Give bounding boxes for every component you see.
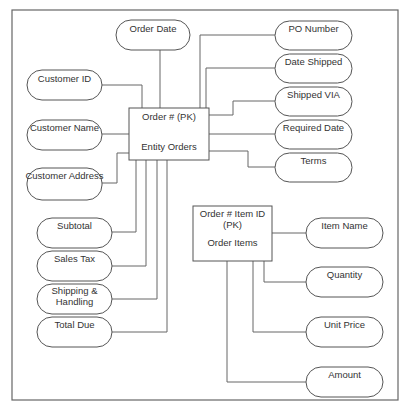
attribute-required-date[interactable]: Required Date bbox=[275, 120, 352, 149]
er-diagram: Order # (PK) Entity Orders Order # Item … bbox=[0, 0, 410, 416]
order-items-name-label: Order Items bbox=[207, 237, 257, 248]
order-items-key-label-line2: (PK) bbox=[223, 219, 242, 230]
attribute-label-line2: Handling bbox=[56, 296, 94, 307]
attribute-unit-price[interactable]: Unit Price bbox=[306, 317, 383, 347]
orders-name-label: Entity Orders bbox=[141, 141, 197, 152]
attribute-label: Amount bbox=[328, 369, 361, 380]
attribute-quantity[interactable]: Quantity bbox=[306, 267, 383, 297]
entity-orders[interactable]: Order # (PK) Entity Orders bbox=[129, 108, 209, 160]
attribute-item-name[interactable]: Item Name bbox=[306, 218, 383, 248]
attribute-label: Unit Price bbox=[324, 319, 365, 330]
attribute-label-line1: Shipping & bbox=[52, 285, 99, 296]
attribute-po-number[interactable]: PO Number bbox=[275, 21, 352, 50]
attribute-label: Customer Name bbox=[30, 122, 99, 133]
attribute-label: Customer Address bbox=[25, 170, 103, 181]
attribute-label: Required Date bbox=[283, 122, 344, 133]
entity-order-items[interactable]: Order # Item ID (PK) Order Items bbox=[193, 206, 272, 261]
attribute-label: Total Due bbox=[54, 319, 94, 330]
attribute-label: Item Name bbox=[321, 220, 367, 231]
attribute-label: Date Shipped bbox=[285, 56, 343, 67]
attribute-customer-address[interactable]: Customer Address bbox=[25, 168, 103, 200]
attribute-customer-name[interactable]: Customer Name bbox=[27, 120, 102, 150]
attribute-shipping-handling[interactable]: Shipping & Handling bbox=[37, 284, 112, 314]
attribute-label: Order Date bbox=[130, 23, 177, 34]
attribute-label: Shipped VIA bbox=[287, 89, 340, 100]
attribute-sales-tax[interactable]: Sales Tax bbox=[37, 251, 112, 281]
attribute-customer-id[interactable]: Customer ID bbox=[27, 70, 102, 100]
attribute-label: Terms bbox=[301, 155, 327, 166]
attribute-total-due[interactable]: Total Due bbox=[37, 317, 112, 347]
attribute-label: Quantity bbox=[327, 269, 363, 280]
attribute-label: Customer ID bbox=[38, 73, 91, 84]
attribute-label: Subtotal bbox=[57, 220, 92, 231]
orders-key-label: Order # (PK) bbox=[142, 111, 196, 122]
attribute-label: Sales Tax bbox=[54, 253, 95, 264]
attribute-amount[interactable]: Amount bbox=[306, 367, 383, 397]
attribute-date-shipped[interactable]: Date Shipped bbox=[275, 54, 352, 83]
attribute-label: PO Number bbox=[288, 23, 338, 34]
attribute-order-date[interactable]: Order Date bbox=[116, 20, 190, 50]
attribute-terms[interactable]: Terms bbox=[275, 153, 352, 182]
order-items-key-label-line1: Order # Item ID bbox=[200, 208, 266, 219]
attribute-shipped-via[interactable]: Shipped VIA bbox=[275, 87, 352, 116]
attribute-subtotal[interactable]: Subtotal bbox=[37, 218, 112, 248]
